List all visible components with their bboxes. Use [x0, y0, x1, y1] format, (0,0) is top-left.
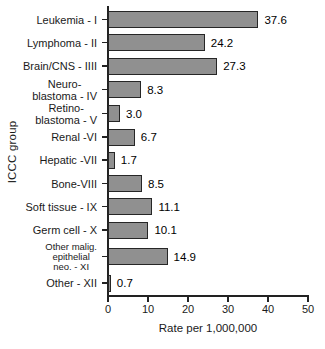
category-label-text: Hepatic -VII	[40, 154, 97, 166]
bar	[108, 34, 205, 51]
category-label: Retino- blastoma - V	[0, 102, 108, 126]
category-label-text: Other malig. epithelial neo. - XI	[45, 242, 97, 272]
value-label: 8.5	[148, 178, 164, 190]
bar	[108, 275, 111, 292]
bar	[108, 222, 148, 239]
y-axis-tick-mark	[102, 206, 108, 208]
y-axis-tick-mark	[102, 229, 108, 231]
category-label-text: Renal -VI	[51, 131, 97, 143]
value-label: 14.9	[174, 251, 196, 263]
y-axis-tick-mark	[102, 42, 108, 44]
category-label: Renal -VI	[0, 131, 108, 143]
category-label-text: Brain/CNS - IIII	[23, 60, 97, 72]
value-label: 1.7	[121, 154, 137, 166]
x-tick-mark	[147, 297, 149, 302]
bar	[108, 105, 120, 122]
category-label: Other malig. epithelial neo. - XI	[0, 242, 108, 272]
bar	[108, 58, 217, 75]
category-label-text: Germ cell - X	[33, 224, 97, 236]
x-tick-mark	[307, 297, 309, 302]
x-tick-label: 20	[173, 303, 203, 315]
x-tick-label: 0	[93, 303, 123, 315]
category-label-text: Retino- blastoma - V	[35, 102, 97, 126]
bar	[108, 152, 115, 169]
x-tick-label: 40	[253, 303, 283, 315]
x-tick-mark	[107, 297, 109, 302]
value-label: 8.3	[147, 84, 163, 96]
bar	[108, 175, 142, 192]
value-label: 27.3	[223, 60, 245, 72]
bar-row: Other - XII0.7	[0, 272, 325, 295]
bar-row: Lymphoma - II24.2	[0, 31, 325, 54]
bar-row: Germ cell - X10.1	[0, 219, 325, 242]
y-axis-tick-mark	[102, 113, 108, 115]
value-label: 6.7	[141, 131, 157, 143]
category-label-text: Leukemia - I	[36, 14, 97, 26]
category-label-text: Lymphoma - II	[27, 37, 97, 49]
bar-row: Brain/CNS - IIII27.3	[0, 54, 325, 77]
category-label-text: Neuro- blastoma - IV	[32, 78, 97, 102]
x-tick-mark	[187, 297, 189, 302]
bar	[108, 198, 152, 215]
bar	[108, 11, 258, 28]
category-label-text: Bone-VIII	[51, 178, 97, 190]
bar-chart-figure: ICCC group Leukemia - I37.6Lymphoma - II…	[0, 0, 325, 349]
bar-row: Leukemia - I37.6	[0, 8, 325, 31]
category-label-text: Soft tissue - IX	[25, 201, 97, 213]
x-tick-label: 10	[133, 303, 163, 315]
x-tick-label: 30	[213, 303, 243, 315]
x-axis-title: Rate per 1,000,000	[108, 322, 308, 334]
y-axis-tick-mark	[102, 159, 108, 161]
x-tick-label: 50	[293, 303, 323, 315]
bar	[108, 129, 135, 146]
category-label: Hepatic -VII	[0, 154, 108, 166]
y-axis-tick-mark	[102, 282, 108, 284]
bar-row: Hepatic -VII1.7	[0, 149, 325, 172]
category-label: Soft tissue - IX	[0, 201, 108, 213]
bar-row: Bone-VIII8.5	[0, 172, 325, 195]
category-label: Germ cell - X	[0, 224, 108, 236]
value-label: 37.6	[264, 14, 286, 26]
category-label: Other - XII	[0, 277, 108, 289]
bar-row: Neuro- blastoma - IV8.3	[0, 78, 325, 102]
x-tick-mark	[267, 297, 269, 302]
value-label: 0.7	[117, 277, 133, 289]
category-label: Bone-VIII	[0, 178, 108, 190]
y-axis-tick-mark	[102, 256, 108, 258]
y-axis-tick-mark	[102, 183, 108, 185]
category-label: Leukemia - I	[0, 14, 108, 26]
category-label-text: Other - XII	[46, 277, 97, 289]
x-tick-mark	[227, 297, 229, 302]
y-axis-tick-mark	[102, 136, 108, 138]
bar-row: Other malig. epithelial neo. - XI14.9	[0, 242, 325, 272]
value-label: 24.2	[211, 37, 233, 49]
bar-row: Soft tissue - IX11.1	[0, 195, 325, 218]
x-axis-line	[107, 295, 309, 297]
value-label: 3.0	[126, 108, 142, 120]
bar-row: Retino- blastoma - V3.0	[0, 102, 325, 126]
plot-area: Leukemia - I37.6Lymphoma - II24.2Brain/C…	[0, 8, 325, 295]
value-label: 10.1	[154, 224, 176, 236]
category-label: Brain/CNS - IIII	[0, 60, 108, 72]
bar-row: Renal -VI6.7	[0, 126, 325, 149]
category-label: Neuro- blastoma - IV	[0, 78, 108, 102]
bar	[108, 81, 141, 98]
category-label: Lymphoma - II	[0, 37, 108, 49]
y-axis-tick-mark	[102, 19, 108, 21]
y-axis-tick-mark	[102, 89, 108, 91]
y-axis-tick-mark	[102, 65, 108, 67]
bar	[108, 248, 168, 265]
value-label: 11.1	[158, 201, 180, 213]
